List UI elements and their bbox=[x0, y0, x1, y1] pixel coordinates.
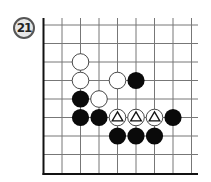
black-stone bbox=[72, 90, 89, 107]
white-stone bbox=[72, 72, 89, 89]
black-stone bbox=[127, 127, 144, 144]
black-stone bbox=[127, 72, 144, 89]
black-stone bbox=[146, 127, 163, 144]
black-stone bbox=[109, 127, 126, 144]
black-stone bbox=[164, 109, 181, 126]
black-stone bbox=[90, 109, 107, 126]
go-board bbox=[0, 0, 211, 182]
white-stone bbox=[72, 54, 89, 71]
black-stone bbox=[72, 109, 89, 126]
white-stone bbox=[91, 91, 108, 108]
white-stone bbox=[109, 72, 126, 89]
